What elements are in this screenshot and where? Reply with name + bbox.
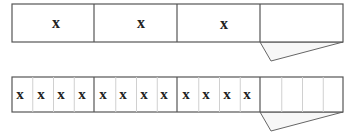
bottom-cell-mark: x <box>243 86 251 102</box>
bottom-cell-mark: x <box>202 86 210 102</box>
bottom-bar: x x x x x x x x x x x x <box>12 77 343 131</box>
bottom-cell-mark: x <box>140 86 148 102</box>
top-segment-mark: x <box>52 14 60 31</box>
fraction-bars-diagram: x x x x x x x x x x <box>0 0 346 133</box>
bottom-cell-mark: x <box>223 86 231 102</box>
bottom-cell-mark: x <box>16 86 24 102</box>
bottom-bar-fold-flap <box>260 112 343 131</box>
bottom-cell-mark: x <box>119 86 127 102</box>
bottom-cell-mark: x <box>78 86 86 102</box>
bottom-cell-mark: x <box>182 86 190 102</box>
top-segment-mark: x <box>220 15 228 32</box>
top-bar: x x x <box>12 4 343 61</box>
top-segment-mark: x <box>137 14 145 31</box>
bottom-cell-mark: x <box>57 86 65 102</box>
bottom-cell-mark: x <box>37 86 45 102</box>
top-bar-fold-flap <box>260 42 343 61</box>
bottom-cell-mark: x <box>99 86 107 102</box>
bottom-cell-mark: x <box>160 86 168 102</box>
